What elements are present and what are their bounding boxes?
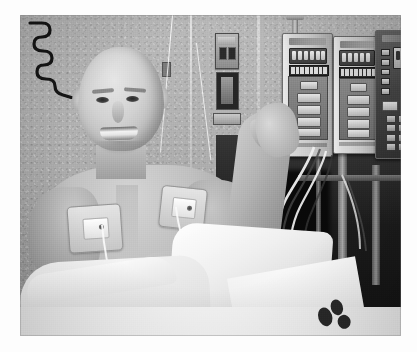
photograph	[20, 15, 401, 336]
patient-smile	[100, 126, 138, 140]
patient-nose	[112, 101, 124, 123]
page-background: Smiling bald male patient propped up in …	[0, 0, 417, 352]
patient-eye-left	[96, 97, 109, 103]
photo-caption: Smiling bald male patient propped up in …	[0, 16, 1, 17]
patient-chin-shadow	[94, 141, 146, 155]
patient-eye-right	[126, 96, 139, 102]
